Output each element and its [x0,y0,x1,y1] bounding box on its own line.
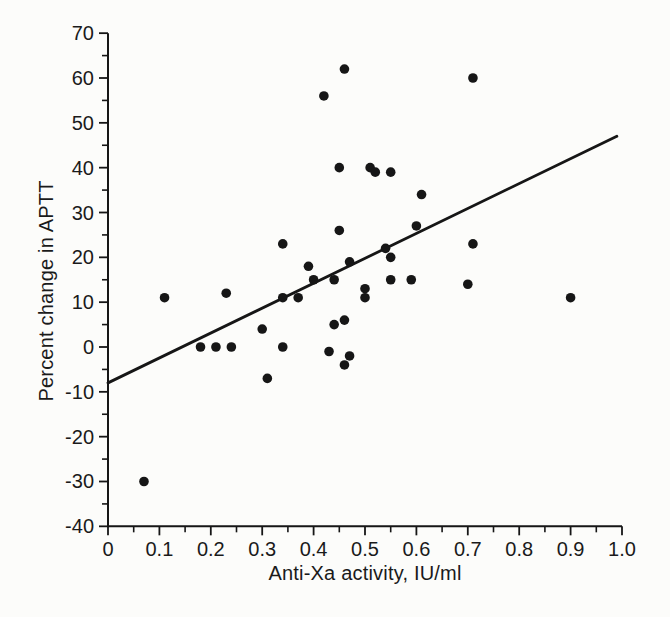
y-tick-label: 20 [72,246,94,268]
regression-line [108,136,617,383]
data-point [309,275,319,285]
x-tick-label: 0.8 [505,538,533,560]
x-tick-label: 0.6 [402,538,430,560]
data-point [360,284,370,294]
y-tick-label: 70 [72,22,94,44]
data-point [360,293,370,303]
data-point [335,163,345,173]
data-point [412,221,422,231]
scanned-figure-page: 00.10.20.30.40.50.60.70.80.91.0706050403… [0,0,670,617]
data-point [406,275,416,285]
data-point [345,257,355,267]
data-point [370,167,380,177]
data-point [468,239,478,249]
x-axis-title: Anti-Xa activity, IU/ml [108,562,622,585]
data-point [319,91,329,101]
data-point [566,293,576,303]
y-tick-label: -20 [65,426,94,448]
data-point [329,275,339,285]
data-point [386,167,396,177]
data-point [278,342,288,352]
data-point [196,342,206,352]
data-point [211,342,221,352]
x-tick-label: 0.4 [300,538,328,560]
x-tick-label: 0.2 [197,538,225,560]
data-point [340,360,350,370]
data-point [278,293,288,303]
y-tick-label: 30 [72,202,94,224]
x-tick-label: 0.5 [351,538,379,560]
data-point [257,324,267,334]
data-point [293,293,303,303]
y-tick-label: 50 [72,112,94,134]
data-point [278,239,288,249]
x-tick-label: 0.9 [557,538,585,560]
x-tick-label: 0.7 [454,538,482,560]
data-point [227,342,237,352]
x-tick-label: 0.3 [248,538,276,560]
y-axis-title: Percent change in APTT [35,180,58,401]
x-tick-label: 0 [102,538,113,560]
y-tick-label: -10 [65,381,94,403]
y-tick-label: -30 [65,470,94,492]
data-point [139,477,149,487]
scatter-chart-figure: 00.10.20.30.40.50.60.70.80.91.0706050403… [0,0,670,617]
data-point [304,262,314,272]
data-point [340,315,350,325]
data-point [263,374,273,384]
y-tick-label: 0 [83,336,94,358]
data-point [386,275,396,285]
data-point [221,288,231,298]
data-point [381,244,391,254]
scatter-plot-svg: 00.10.20.30.40.50.60.70.80.91.0706050403… [0,0,670,617]
y-tick-label: -40 [65,515,94,537]
y-tick-label: 10 [72,291,94,313]
data-point [386,253,396,263]
data-point [345,351,355,361]
data-point [417,190,427,200]
data-point [340,64,350,74]
y-tick-label: 60 [72,67,94,89]
data-point [468,73,478,83]
x-tick-label: 1.0 [608,538,636,560]
data-point [324,347,334,357]
data-point [463,279,473,289]
x-tick-label: 0.1 [145,538,173,560]
data-point [335,226,345,236]
data-point [160,293,170,303]
data-point [329,320,339,330]
y-tick-label: 40 [72,157,94,179]
